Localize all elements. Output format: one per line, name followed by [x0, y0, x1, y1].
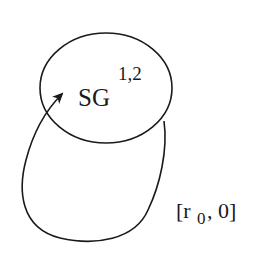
state-superscript: 1,2: [118, 63, 142, 84]
self-loop-edge: [22, 94, 165, 241]
state-diagram: SG 1,2 [r 0 , 0]: [0, 0, 259, 254]
state-node: SG 1,2: [40, 33, 172, 143]
edge-label-open: [r: [176, 198, 191, 223]
state-label: SG: [78, 84, 110, 111]
edge-label: [r 0 , 0]: [176, 198, 236, 228]
edge-label-subscript: 0: [197, 209, 206, 228]
edge-label-close: , 0]: [207, 198, 236, 223]
